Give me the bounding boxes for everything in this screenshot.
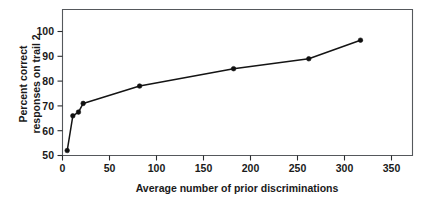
y-axis-title-line1: Percent correct (17, 45, 29, 123)
x-axis-title: Average number of prior discriminations (136, 182, 339, 194)
data-point (65, 148, 70, 153)
x-tick-label-200: 200 (242, 162, 260, 174)
x-tick-label-350: 350 (383, 162, 401, 174)
series-line (67, 40, 360, 150)
x-tick-label-0: 0 (60, 162, 66, 174)
data-point (306, 56, 311, 61)
data-point (71, 114, 76, 119)
y-axis-title-line2: responses on trail 2 (30, 34, 42, 133)
y-tick-label-90: 90 (42, 50, 54, 62)
plot-frame (63, 10, 413, 156)
x-tick-label-150: 150 (195, 162, 213, 174)
data-point (358, 38, 363, 43)
line-chart-canvas: 50 60 70 80 90 100 0 50 100 150 200 250 (0, 0, 434, 201)
x-tick-label-50: 50 (104, 162, 116, 174)
x-axis-ticks (63, 156, 392, 161)
y-tick-label-60: 60 (42, 125, 54, 137)
data-series-group (65, 38, 363, 153)
data-point (137, 84, 142, 89)
y-axis-ticks (58, 32, 63, 156)
data-point (76, 110, 81, 115)
x-tick-label-300: 300 (336, 162, 354, 174)
y-tick-label-50: 50 (42, 149, 54, 161)
x-tick-label-100: 100 (148, 162, 166, 174)
data-point (81, 101, 86, 106)
y-tick-label-70: 70 (42, 100, 54, 112)
y-tick-label-80: 80 (42, 75, 54, 87)
data-point (231, 66, 236, 71)
x-tick-label-250: 250 (289, 162, 307, 174)
chart-figure: 50 60 70 80 90 100 0 50 100 150 200 250 (0, 0, 434, 201)
plot-frame-rect (63, 10, 413, 156)
x-axis-tick-labels: 0 50 100 150 200 250 300 350 (60, 162, 401, 174)
